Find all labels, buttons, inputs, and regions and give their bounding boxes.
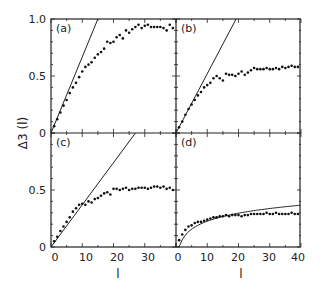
data-point: [118, 189, 121, 192]
data-point: [62, 104, 65, 107]
data-point: [290, 212, 293, 215]
data-point: [184, 113, 187, 116]
data-point: [262, 68, 265, 71]
figure: (a)(b)(c)(d) 1.0 0.5 0 0.5 0 0 10 20 30 …: [0, 0, 322, 292]
data-point: [200, 91, 203, 94]
data-point: [237, 214, 240, 217]
data-point: [243, 74, 246, 77]
theory-curve: [176, 205, 300, 247]
x-tick-label: 40: [291, 251, 305, 264]
data-point: [200, 221, 203, 224]
data-point: [193, 99, 196, 102]
data-point: [272, 213, 275, 216]
panel-label: (b): [181, 22, 197, 35]
data-point: [197, 221, 200, 224]
data-point: [165, 29, 168, 32]
data-point: [56, 235, 59, 238]
data-point: [231, 74, 234, 77]
data-point: [253, 213, 256, 216]
data-point: [162, 185, 165, 188]
data-point: [206, 84, 209, 87]
data-point: [250, 69, 253, 72]
data-point: [93, 198, 96, 201]
data-point: [165, 188, 168, 191]
panel-a: (a): [51, 0, 176, 133]
data-point: [90, 61, 93, 64]
data-point: [278, 213, 281, 216]
data-point: [168, 186, 171, 189]
data-point: [153, 185, 156, 188]
data-point: [87, 200, 90, 203]
data-point: [172, 27, 175, 30]
data-point: [178, 239, 181, 242]
data-point: [250, 213, 253, 216]
data-point: [72, 210, 75, 213]
x-axis-label: l: [116, 267, 119, 281]
data-point: [134, 26, 137, 29]
data-point: [218, 77, 221, 80]
y-tick-label: 0: [39, 241, 46, 254]
data-point: [197, 94, 200, 97]
data-point: [143, 186, 146, 189]
panel-b: (b): [176, 0, 301, 133]
data-point: [147, 23, 150, 26]
data-point: [59, 111, 62, 114]
data-point: [234, 214, 237, 217]
data-point: [156, 26, 159, 29]
data-point: [112, 188, 115, 191]
data-point: [109, 193, 112, 196]
data-point: [140, 27, 143, 30]
data-point: [268, 68, 271, 71]
data-point: [222, 79, 225, 82]
x-tick-label: 0: [52, 251, 59, 264]
data-point: [253, 67, 256, 70]
data-point: [97, 197, 100, 200]
data-point: [84, 66, 87, 69]
data-point: [262, 213, 265, 216]
x-tick-label: 30: [262, 251, 276, 264]
data-point: [212, 216, 215, 219]
data-point: [68, 92, 71, 95]
data-point: [106, 191, 109, 194]
data-point: [59, 230, 62, 233]
data-point: [168, 23, 171, 26]
y-tick-label: 0.5: [29, 184, 47, 197]
y-tick-label: 1.0: [29, 13, 47, 26]
panel-d: (d): [176, 133, 301, 247]
data-point: [212, 77, 215, 80]
data-point: [65, 99, 68, 102]
data-point: [122, 37, 125, 40]
data-point: [297, 213, 300, 216]
x-tick-label: 30: [141, 251, 155, 264]
data-point: [228, 215, 231, 218]
data-point: [112, 41, 115, 44]
data-point: [272, 68, 275, 71]
data-point: [106, 41, 109, 44]
panel-label: (c): [56, 136, 71, 149]
data-point: [218, 215, 221, 218]
data-point: [118, 34, 121, 37]
data-point: [225, 72, 228, 75]
data-point: [290, 64, 293, 67]
data-point: [222, 215, 225, 218]
data-point: [78, 204, 81, 207]
x-tick-label: 20: [110, 251, 124, 264]
data-point: [256, 213, 259, 216]
data-point: [103, 192, 106, 195]
data-point: [284, 213, 287, 216]
data-point: [256, 68, 259, 71]
data-point: [131, 188, 134, 191]
data-point: [150, 186, 153, 189]
data-point: [90, 201, 93, 204]
data-point: [275, 67, 278, 70]
data-point: [53, 125, 56, 128]
data-point: [193, 222, 196, 225]
data-point: [75, 207, 78, 210]
data-point: [100, 51, 103, 54]
panel-label: (d): [181, 136, 197, 149]
data-point: [128, 31, 131, 34]
data-point: [287, 66, 290, 69]
data-point: [150, 26, 153, 29]
data-point: [128, 189, 131, 192]
x-axis-label: l: [239, 267, 242, 281]
